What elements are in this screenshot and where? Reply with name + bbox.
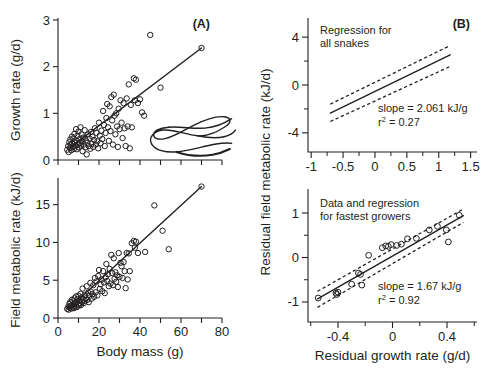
annotation-line-2: for fastest growers bbox=[320, 210, 411, 222]
data-point bbox=[413, 235, 419, 241]
data-point bbox=[102, 143, 107, 148]
slope-text: slope = 2.061 kJ/g bbox=[378, 102, 468, 114]
x-axis-label: Body mass (g) bbox=[96, 344, 183, 359]
data-point bbox=[115, 284, 120, 289]
data-point bbox=[126, 82, 131, 87]
data-point bbox=[119, 120, 124, 125]
snake-stroke bbox=[177, 149, 230, 156]
annotation-line-1: Data and regression bbox=[320, 197, 419, 209]
figure-svg: 0123Growth rate (g/d)(A)051015020406080F… bbox=[0, 0, 494, 372]
y-axis-label: Growth rate (g/d) bbox=[8, 39, 23, 141]
data-point bbox=[142, 249, 147, 254]
y-tick-label: 0 bbox=[292, 78, 299, 93]
x-tick-label: 0 bbox=[54, 324, 61, 339]
x-tick-label: 80 bbox=[215, 324, 229, 339]
data-point bbox=[379, 245, 385, 251]
x-tick-label: 1.5 bbox=[462, 159, 480, 174]
data-point bbox=[160, 228, 165, 233]
data-point bbox=[435, 223, 441, 229]
y-tick-label: 3 bbox=[43, 13, 50, 28]
data-point bbox=[152, 203, 157, 208]
y-tick-label: -4 bbox=[287, 125, 299, 140]
data-point bbox=[445, 239, 451, 245]
x-tick-label: 0.5 bbox=[398, 159, 416, 174]
data-point bbox=[125, 277, 130, 282]
y-tick-label: 1 bbox=[43, 106, 50, 121]
x-tick-label: 0 bbox=[389, 329, 396, 344]
panel-label-a: (A) bbox=[193, 17, 210, 31]
x-tick-label: 60 bbox=[174, 324, 188, 339]
snake-stroke bbox=[169, 119, 232, 129]
annotation-line-1: Regression for bbox=[320, 24, 392, 36]
y-tick-label: 0 bbox=[292, 250, 299, 265]
data-point bbox=[135, 250, 140, 255]
panel-label-b: (B) bbox=[453, 17, 470, 31]
panel-b-top: -404-1-0.500.511.5Regression forall snak… bbox=[287, 17, 479, 174]
data-point bbox=[113, 132, 118, 137]
x-tick-label: -1 bbox=[305, 159, 317, 174]
x-tick-label: 0 bbox=[371, 159, 378, 174]
data-point bbox=[122, 268, 127, 273]
y-tick-label: 10 bbox=[36, 235, 50, 250]
panel-a-bottom: 051015020406080Field metabolic rate (kJ/… bbox=[8, 172, 229, 359]
y-tick-label: -1 bbox=[287, 294, 299, 309]
data-point bbox=[127, 146, 132, 151]
x-tick-label: -0.5 bbox=[332, 159, 354, 174]
data-point bbox=[116, 250, 121, 255]
y-tick-label: 15 bbox=[36, 197, 50, 212]
x-tick-label: 0.4 bbox=[438, 329, 456, 344]
data-point bbox=[349, 281, 355, 287]
x-tick-label: 1 bbox=[435, 159, 442, 174]
y-axis-label: Field metabolic rate (kJ/d) bbox=[8, 172, 23, 327]
data-point bbox=[148, 32, 153, 37]
regression-line bbox=[68, 187, 201, 309]
data-point bbox=[120, 135, 125, 140]
data-point bbox=[166, 247, 171, 252]
y-tick-label: 4 bbox=[292, 30, 299, 45]
annotation-line-2: all snakes bbox=[320, 37, 369, 49]
data-point bbox=[158, 85, 163, 90]
data-point bbox=[100, 108, 105, 113]
data-point bbox=[115, 144, 120, 149]
data-point bbox=[127, 268, 132, 273]
snake-stroke bbox=[151, 117, 230, 145]
y-axis-label-shared: Residual field metabolic rate (kJ/d) bbox=[258, 68, 273, 275]
data-point bbox=[124, 96, 129, 101]
r-squared-text: r2 = 0.27 bbox=[378, 115, 420, 128]
data-point bbox=[366, 252, 372, 258]
x-tick-label: 20 bbox=[92, 324, 106, 339]
x-tick-label: 40 bbox=[133, 324, 147, 339]
figure-panel-group: 0123Growth rate (g/d)(A)051015020406080F… bbox=[0, 0, 494, 372]
x-tick-label: -0.4 bbox=[327, 329, 349, 344]
y-tick-label: 0 bbox=[43, 153, 50, 168]
y-tick-label: 1 bbox=[292, 206, 299, 221]
y-tick-label: 5 bbox=[43, 273, 50, 288]
panel-a-top: 0123Growth rate (g/d)(A) bbox=[8, 13, 235, 168]
slope-text: slope = 1.67 kJ/g bbox=[378, 280, 461, 292]
data-point bbox=[359, 282, 365, 288]
snake-icon bbox=[151, 117, 236, 156]
r-squared-text: r2 = 0.92 bbox=[378, 293, 420, 306]
data-point bbox=[104, 261, 109, 266]
y-tick-label: 2 bbox=[43, 59, 50, 74]
data-point bbox=[84, 152, 89, 157]
data-point bbox=[123, 285, 128, 290]
snake-stroke bbox=[152, 143, 232, 152]
y-tick-label: 0 bbox=[43, 311, 50, 326]
data-point bbox=[443, 227, 449, 233]
x-axis-label: Residual growth rate (g/d) bbox=[315, 348, 470, 363]
